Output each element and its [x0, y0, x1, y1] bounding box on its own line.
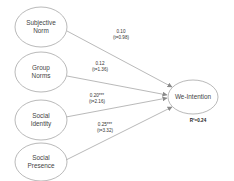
path-diagram: Subjective Norm Group Norms Social Ident…	[0, 0, 234, 181]
edge-label-group-norms: 0.12 (t=1.36)	[92, 61, 108, 72]
node-social-identity: Social Identity	[15, 100, 67, 140]
t-value: (t=2.16)	[89, 99, 105, 104]
path-arrow-group-norms	[67, 76, 167, 95]
coefficient: 0.20***	[90, 93, 105, 98]
coefficient: 0.12	[96, 61, 105, 66]
t-value: (t=0.98)	[113, 35, 129, 40]
coefficient: 0.25***	[98, 122, 113, 127]
t-value: (t=3.32)	[97, 128, 113, 133]
coefficient: 0.10	[117, 29, 126, 34]
path-arrow-social-presence	[66, 107, 172, 160]
node-label: Group	[32, 64, 50, 72]
node-label: Identity	[31, 120, 52, 128]
t-value: (t=1.36)	[92, 67, 108, 72]
edge-label-social-identity: 0.20*** (t=2.16)	[89, 93, 105, 104]
path-arrow-social-identity	[66, 98, 167, 117]
node-social-presence: Social Presence	[15, 143, 67, 181]
r-squared-label: R²=0.24	[190, 118, 207, 123]
node-label: Social	[32, 112, 49, 119]
node-label: Social	[32, 154, 49, 161]
node-label: Norm	[33, 27, 49, 34]
node-label: Norms	[32, 72, 51, 79]
node-label: Subjective	[26, 19, 56, 27]
node-subjective-norm: Subjective Norm	[15, 7, 67, 47]
node-group-norms: Group Norms	[15, 52, 67, 92]
node-label: We-Intention	[175, 93, 212, 100]
edge-label-social-presence: 0.25*** (t=3.32)	[97, 122, 113, 133]
node-we-intention: We-Intention	[168, 80, 218, 114]
node-label: Presence	[28, 162, 55, 169]
edge-label-subjective-norm: 0.10 (t=0.98)	[113, 29, 129, 40]
